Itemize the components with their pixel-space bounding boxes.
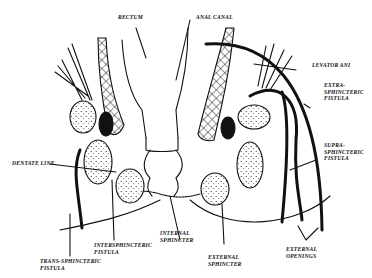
label-intersphincteric-fistula: INTERSPHINCTERIC FISTULA [94, 242, 152, 255]
label-internal-sphincter: INTERNAL SPHINCTER [160, 230, 194, 243]
label-extra-sphincteric-fistula: EXTRA- SPHINCTERIC FISTULA [324, 82, 364, 102]
label-supra-sphincteric-fistula: SUPRA- SPHINCTERIC FISTULA [324, 142, 364, 162]
label-external-openings: EXTERNAL OPENINGS [286, 246, 317, 259]
label-external-sphincter: EXTERNAL SPHINCTER [208, 254, 242, 267]
label-levator-ani: LEVATOR ANI [312, 62, 350, 69]
label-trans-sphincteric-fistula: TRANS-SPHINCTERIC FISTULA [40, 258, 101, 271]
label-dentate-line: DENTATE LINE [12, 160, 55, 167]
label-rectum: RECTUM [118, 14, 143, 21]
fistula-diagram: RECTUM ANAL CANAL LEVATOR ANI EXTRA- SPH… [0, 0, 372, 278]
label-anal-canal: ANAL CANAL [196, 14, 233, 21]
